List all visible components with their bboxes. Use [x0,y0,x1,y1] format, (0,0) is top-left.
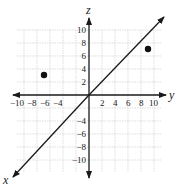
svg-text:−4: −4 [53,98,63,108]
point-1 [41,72,47,78]
y-axis-label: y [168,88,175,102]
svg-text:4: 4 [82,64,87,74]
svg-text:−8: −8 [76,142,86,152]
svg-text:10: 10 [149,98,159,108]
x-axis-label: x [2,173,9,186]
svg-text:−8: −8 [27,98,37,108]
svg-text:4: 4 [113,98,118,108]
svg-text:−6: −6 [40,98,50,108]
svg-text:10: 10 [77,25,87,35]
svg-text:2: 2 [100,98,105,108]
coordinate-diagram: z y x −10 −8 −6 −4 2 4 6 8 10 10 8 6 4 2… [0,0,181,186]
svg-text:−6: −6 [76,129,86,139]
svg-text:6: 6 [126,98,131,108]
svg-text:8: 8 [139,98,144,108]
svg-text:2: 2 [82,77,87,87]
svg-text:−4: −4 [76,116,86,126]
svg-text:−10: −10 [10,98,25,108]
point-2 [145,46,151,52]
svg-text:6: 6 [82,51,87,61]
svg-text:8: 8 [82,38,87,48]
z-axis-label: z [85,3,91,17]
svg-text:−10: −10 [72,155,87,165]
